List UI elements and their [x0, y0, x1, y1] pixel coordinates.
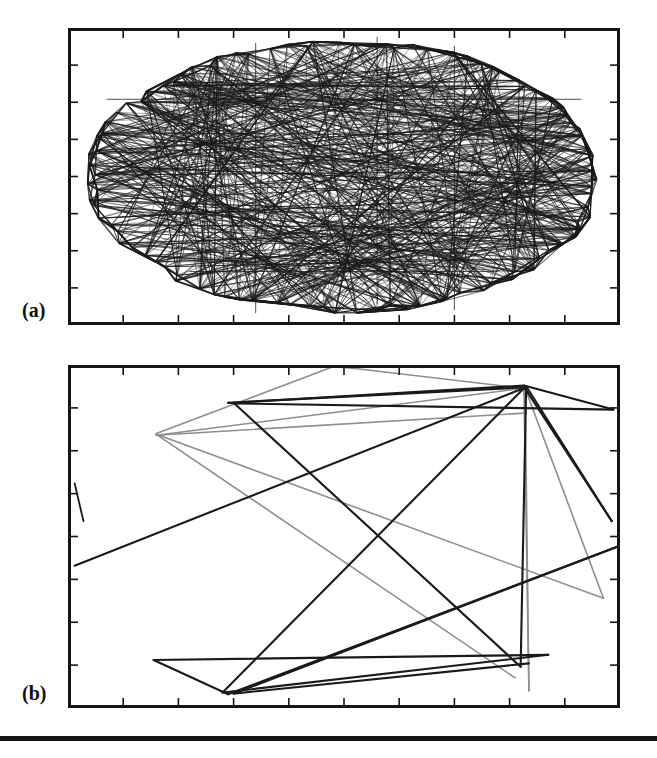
panel-a	[68, 28, 620, 325]
figure-root: (a) (b)	[0, 0, 657, 758]
panel-a-plot	[68, 28, 620, 325]
panel-b	[68, 365, 620, 708]
panel-b-label: (b)	[22, 683, 46, 703]
bottom-horizontal-rule	[0, 736, 657, 741]
panel-b-plot	[68, 365, 620, 708]
rim-chord	[313, 42, 339, 43]
rim-chord	[236, 53, 249, 54]
panel-a-label: (a)	[22, 300, 45, 320]
